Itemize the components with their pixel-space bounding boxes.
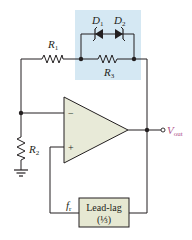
r1-resistor: [42, 55, 63, 63]
opamp-triangle: [64, 97, 128, 163]
ground-icon: [14, 170, 28, 176]
r1-label: R1: [47, 38, 59, 52]
circuit-diagram: D1 D2 R1 R3 − + R2 Vout Lead-lag (⅓) fr: [0, 0, 192, 240]
opamp-inverting-sign: −: [68, 108, 74, 119]
junction-dot: [132, 57, 136, 61]
junction-dot: [145, 128, 149, 132]
junction-dot: [79, 57, 83, 61]
r2-resistor: [17, 137, 25, 160]
junction-dot: [19, 111, 23, 115]
lead-lag-gain: (⅓): [97, 214, 111, 226]
r2-label: R2: [28, 143, 40, 157]
vout-label: Vout: [167, 124, 183, 138]
fr-label: fr: [66, 199, 72, 213]
lead-lag-label: Lead-lag: [86, 202, 122, 213]
opamp-noninverting-sign: +: [68, 142, 74, 153]
vout-terminal: [161, 128, 165, 132]
